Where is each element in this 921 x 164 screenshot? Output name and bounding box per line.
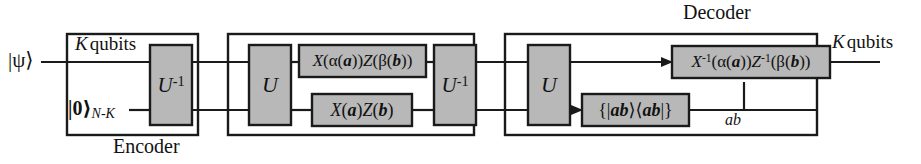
input-state-label: |ψ⟩ bbox=[8, 50, 34, 71]
gate-box-error-lower bbox=[312, 94, 412, 126]
gate-box-u-decoder bbox=[528, 45, 570, 125]
gate-box-error-upper bbox=[299, 45, 426, 77]
gate-box-u-channel-in bbox=[249, 45, 291, 125]
qubits-in-symbol: K bbox=[75, 33, 88, 54]
gate-box-u-inverse-encoder bbox=[150, 45, 192, 125]
input-ancilla-label: |0⟩N-K bbox=[68, 98, 115, 121]
qubits-out-symbol: K bbox=[832, 31, 845, 52]
gate-box-u-inverse-channel bbox=[434, 45, 476, 125]
gate-box-correction bbox=[672, 46, 830, 78]
classical-wire-label: ab bbox=[725, 112, 741, 128]
qubits-in-word: qubits bbox=[90, 33, 136, 54]
quantum-circuit-figure: |ψ⟩ |0⟩N-K Kqubits Kqubits Encoder Decod… bbox=[0, 0, 921, 164]
qubits-out-word: qubits bbox=[847, 31, 893, 52]
encoder-caption: Encoder bbox=[113, 136, 180, 156]
ancilla-subscript: N-K bbox=[92, 106, 115, 121]
qubits-out-label: Kqubits bbox=[832, 32, 893, 51]
decoder-caption: Decoder bbox=[683, 2, 751, 22]
ancilla-ket: |0⟩ bbox=[68, 97, 92, 119]
gate-box-measurement bbox=[582, 94, 689, 126]
qubits-in-label: Kqubits bbox=[75, 34, 136, 53]
